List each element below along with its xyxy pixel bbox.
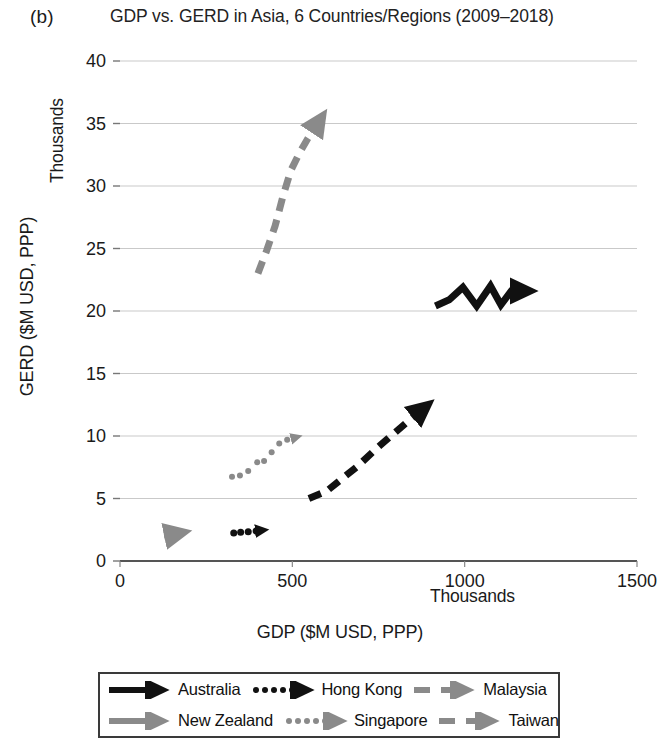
data-point — [245, 468, 251, 474]
legend-dot — [304, 718, 310, 724]
legend-label: Australia — [178, 680, 240, 699]
data-point — [261, 458, 267, 464]
series-singapore — [229, 437, 296, 480]
legend-key-solid-dark-arrow-r0c0 — [107, 681, 173, 699]
legend-dot — [280, 687, 286, 693]
series-malaysia — [309, 409, 423, 499]
x-tick-label: 1500 — [617, 571, 657, 591]
legend-item-hong-kong[interactable]: Hong Kong — [250, 680, 412, 699]
legend-dot — [253, 687, 259, 693]
legend-dot — [289, 687, 295, 693]
series-arrowhead — [256, 530, 262, 531]
x-tick-label: 500 — [277, 571, 307, 591]
data-point — [245, 528, 252, 535]
data-point — [230, 529, 237, 536]
series-layer — [164, 121, 524, 536]
data-point — [254, 459, 260, 465]
series-hong-kong — [230, 528, 262, 537]
y-tick-label: 5 — [96, 489, 106, 509]
legend-item-malaysia[interactable]: Malaysia — [412, 680, 557, 699]
y-tick-label: 10 — [86, 426, 106, 446]
y-tick-label: 30 — [86, 176, 106, 196]
legend-dot — [322, 718, 328, 724]
legend-label: New Zealand — [178, 711, 273, 730]
legend: AustraliaHong KongMalaysiaNew ZealandSin… — [98, 672, 560, 738]
legend-dot — [286, 718, 292, 724]
legend-label: Hong Kong — [321, 680, 402, 699]
gridlines — [120, 61, 637, 561]
series-line — [258, 121, 319, 274]
y-tick-labels: 0510152025303540 — [86, 51, 120, 571]
legend-dot — [313, 718, 319, 724]
series-taiwan — [258, 121, 319, 274]
y-tick-label: 0 — [96, 551, 106, 571]
legend-dot — [262, 687, 268, 693]
legend-dot — [271, 687, 277, 693]
data-point — [237, 529, 244, 536]
legend-row: New ZealandSingaporeTaiwan — [100, 705, 558, 736]
series-line — [309, 409, 423, 499]
data-point — [229, 474, 235, 480]
series-new-zealand — [164, 534, 178, 537]
y-tick-label: 15 — [86, 364, 106, 384]
legend-item-singapore[interactable]: Singapore — [283, 711, 437, 730]
data-point — [269, 449, 275, 455]
legend-item-australia[interactable]: Australia — [107, 680, 250, 699]
legend-key-dashed-gray-arrow-r0c2 — [412, 681, 478, 699]
legend-key-dotted-gray-arrow-r1c1 — [283, 712, 349, 730]
y-tick-label: 20 — [86, 301, 106, 321]
x-tick-label: 0 — [115, 571, 125, 591]
legend-label: Taiwan — [508, 711, 558, 730]
y-tick-label: 25 — [86, 239, 106, 259]
legend-row: AustraliaHong KongMalaysia — [100, 674, 558, 705]
y-tick-label: 40 — [86, 51, 106, 71]
legend-item-taiwan[interactable]: Taiwan — [437, 711, 568, 730]
legend-item-new-zealand[interactable]: New Zealand — [107, 711, 283, 730]
legend-label: Malaysia — [483, 680, 547, 699]
series-australia — [435, 286, 524, 306]
scatter-plot: 0510152025303540 050010001500 — [0, 0, 658, 670]
x-tick-labels: 050010001500 — [115, 571, 657, 591]
legend-dot — [295, 718, 301, 724]
y-tick-label: 35 — [86, 114, 106, 134]
legend-label: Singapore — [354, 711, 427, 730]
legend-key-solid-gray-arrow-r1c0 — [107, 712, 173, 730]
series-line — [435, 286, 524, 306]
data-point — [237, 472, 243, 478]
legend-key-dashed-gray-arrow-r1c2 — [437, 712, 503, 730]
series-line — [164, 534, 178, 537]
data-point — [276, 441, 282, 447]
legend-key-dotted-dark-arrow-r0c1 — [250, 681, 316, 699]
x-tick-label: 1000 — [445, 571, 485, 591]
